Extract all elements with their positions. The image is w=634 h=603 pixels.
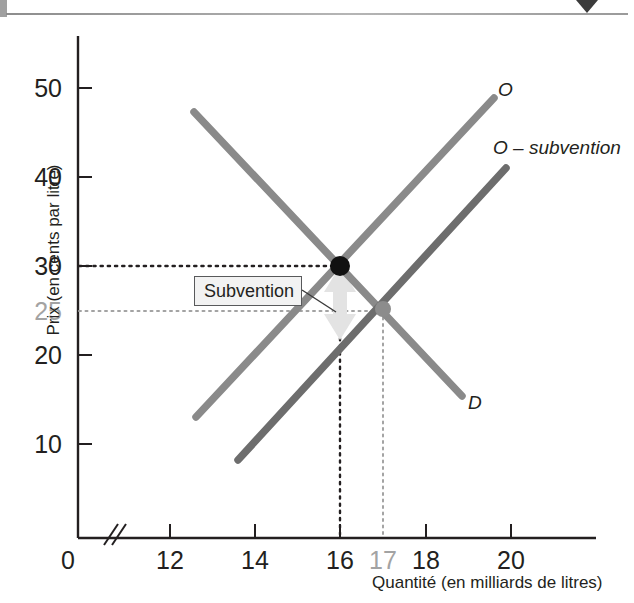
x-tick-label-12: 12 [142, 548, 198, 573]
x-origin-label: 0 [40, 548, 96, 573]
y-tick-label-10: 10 [6, 432, 62, 457]
curve-label-supply-subsidy: O – subvention [493, 137, 621, 159]
equilibrium-point-initial [330, 256, 350, 276]
y-tick-label-50: 50 [6, 76, 62, 101]
curve-label-demand: D [468, 392, 482, 414]
figure-canvas: 50 40 30 25 20 10 0 12 14 16 17 18 20 Pr… [0, 0, 634, 603]
subvention-callout-box: Subvention [194, 276, 302, 306]
supply-demand-chart [0, 0, 634, 603]
x-axis-title: Quantité (en milliards de litres) [372, 573, 603, 593]
subvention-callout-label: Subvention [195, 277, 303, 307]
x-tick-label-20: 20 [483, 548, 539, 573]
x-tick-label-18: 18 [398, 548, 454, 573]
equilibrium-point-subsidy [375, 301, 391, 317]
y-axis-title: Prix (en cents par litre) [44, 135, 64, 365]
curve-label-supply: O [498, 79, 513, 101]
axis-break-icon [104, 524, 126, 545]
supply-subsidy-curve [238, 168, 506, 460]
demand-curve [194, 112, 462, 396]
x-tick-label-14: 14 [227, 548, 283, 573]
